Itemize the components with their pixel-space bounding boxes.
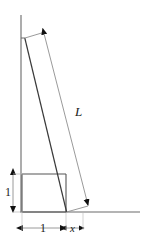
box-width-label: 1 <box>40 222 46 234</box>
gap-label: x <box>70 223 75 234</box>
ladder-line <box>25 38 67 212</box>
geometry-figure: L 1 1 x <box>0 0 151 241</box>
ladder-length-label: L <box>75 105 82 118</box>
box-height-label: 1 <box>5 186 11 198</box>
length-leader-top <box>25 32 45 38</box>
length-leader-bottom <box>67 206 88 212</box>
diagram-canvas <box>0 0 151 241</box>
